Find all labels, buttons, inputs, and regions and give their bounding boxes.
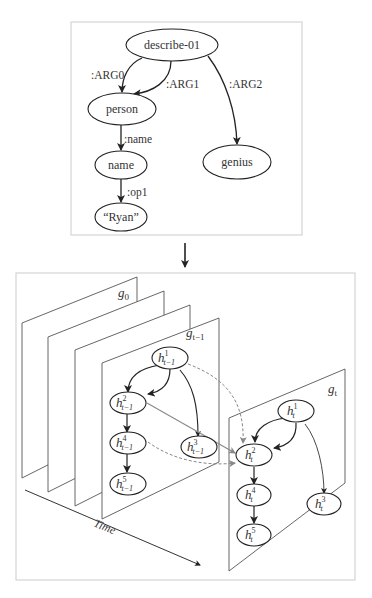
- node-curr-h1: h1t: [278, 400, 314, 422]
- node-name: name: [95, 151, 147, 179]
- node-prev-h5: h5t−1: [110, 473, 146, 495]
- edge-label-arg1: :ARG1: [166, 78, 199, 90]
- node-prev-h3: h3t−1: [181, 436, 217, 458]
- node-describe: describe-01: [126, 29, 218, 61]
- amr-graph-panel: :ARG0 :ARG1 :ARG2 :name :op1 describe-01…: [71, 22, 302, 235]
- svg-text:genius: genius: [221, 155, 253, 169]
- svg-text:person: person: [106, 102, 138, 116]
- edge-label-arg0: :ARG0: [91, 69, 124, 81]
- node-curr-h2: h2t: [236, 444, 272, 466]
- edge-label-arg2: :ARG2: [229, 78, 262, 90]
- svg-text:name: name: [108, 158, 134, 172]
- dynamic-graph-panel: Time g0 gt−1 gt h1t−1: [16, 273, 355, 580]
- figure-canvas: :ARG0 :ARG1 :ARG2 :name :op1 describe-01…: [0, 0, 372, 598]
- node-prev-h4: h4t−1: [110, 432, 146, 454]
- edge-label-op1: :op1: [127, 186, 148, 199]
- svg-text:“Ryan”: “Ryan”: [103, 210, 139, 224]
- svg-text:describe-01: describe-01: [144, 38, 200, 52]
- node-prev-h1: h1t−1: [152, 347, 188, 369]
- node-curr-h5: h5t: [237, 524, 271, 546]
- node-person: person: [88, 93, 156, 125]
- node-genius: genius: [203, 145, 271, 179]
- edge-label-name: :name: [124, 133, 152, 145]
- node-curr-h4: h4t: [237, 484, 271, 506]
- node-curr-h3: h3t: [307, 493, 341, 515]
- node-prev-h2: h2t−1: [110, 392, 146, 414]
- node-ryan: “Ryan”: [95, 203, 147, 231]
